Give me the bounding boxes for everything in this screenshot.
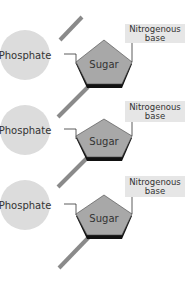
base-label-line2: base <box>145 111 165 121</box>
backbone-segment-top <box>60 17 82 40</box>
sugar-label: Sugar <box>89 136 119 147</box>
nucleotide-1: Phosphate Sugar Nitrogenous base <box>0 24 185 88</box>
backbone-segment-1 <box>58 87 88 117</box>
phosphate-connector <box>64 129 76 139</box>
sugar-label: Sugar <box>89 213 119 224</box>
base-label-line2: base <box>145 186 165 196</box>
nucleotide-3: Phosphate Sugar Nitrogenous base <box>0 176 185 239</box>
phosphate-label: Phosphate <box>0 125 51 136</box>
phosphate-connector <box>64 204 76 215</box>
backbone-segment-2 <box>58 157 88 187</box>
base-label-line2: base <box>145 33 165 43</box>
phosphate-connector <box>64 54 76 64</box>
nucleotide-diagram: Phosphate Sugar Nitrogenous base Phospha… <box>0 0 192 281</box>
phosphate-label: Phosphate <box>0 50 51 61</box>
nucleotide-2: Phosphate Sugar Nitrogenous base <box>0 101 185 161</box>
backbone-segment-bottom <box>59 237 89 268</box>
sugar-label: Sugar <box>89 59 119 70</box>
phosphate-label: Phosphate <box>0 200 51 211</box>
